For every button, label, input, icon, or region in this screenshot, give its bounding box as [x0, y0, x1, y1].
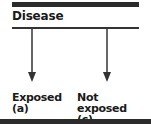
diagram-title: Disease — [12, 9, 63, 23]
arrow-down-icon — [27, 28, 37, 82]
branch-exposed: Exposed (a) — [12, 92, 62, 114]
branch-code: (a) — [12, 103, 62, 114]
arrow-down-icon — [102, 28, 112, 82]
bottom-rule — [0, 119, 151, 124]
branch-label: Not exposed — [77, 92, 151, 114]
top-rule — [12, 2, 139, 7]
